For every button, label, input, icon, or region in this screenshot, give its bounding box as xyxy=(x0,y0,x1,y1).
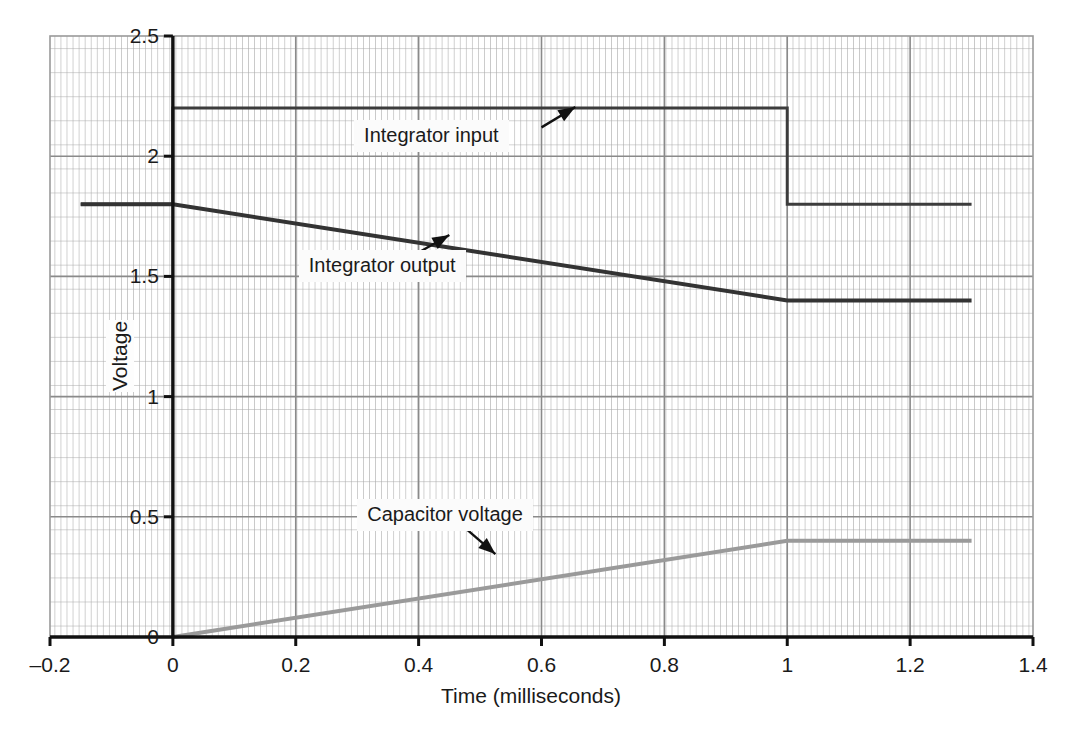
x-tick-label: 1.4 xyxy=(1018,653,1047,677)
chart-figure: –0.200.20.40.60.811.21.4 00.511.522.5 Ti… xyxy=(0,0,1082,736)
y-tick-label: 1 xyxy=(0,385,159,409)
chart-plot-svg xyxy=(0,0,1082,736)
x-tick-label: 1 xyxy=(781,653,793,677)
x-tick-label: 0.8 xyxy=(650,653,679,677)
x-tick-label: –0.2 xyxy=(30,653,71,677)
x-tick-label: 0.6 xyxy=(527,653,556,677)
y-axis-title: Voltage xyxy=(106,320,134,392)
y-tick-label: 0 xyxy=(0,625,159,649)
x-tick-label: 0.2 xyxy=(281,653,310,677)
y-tick-label: 2 xyxy=(0,144,159,168)
y-tick-label: 2.5 xyxy=(0,24,159,48)
annotation-label: Capacitor voltage xyxy=(357,499,533,531)
annotation-label: Integrator input xyxy=(354,120,509,152)
x-tick-label: 1.2 xyxy=(896,653,925,677)
y-tick-label: 0.5 xyxy=(0,505,159,529)
annotation-label: Integrator output xyxy=(299,250,466,282)
x-tick-label: 0.4 xyxy=(404,653,433,677)
x-tick-label: 0 xyxy=(167,653,179,677)
x-axis-title: Time (milliseconds) xyxy=(441,684,621,708)
y-tick-label: 1.5 xyxy=(0,264,159,288)
